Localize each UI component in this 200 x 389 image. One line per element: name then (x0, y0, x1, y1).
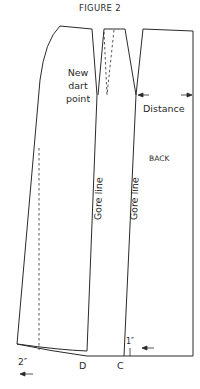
new-dart-point-label: New dart point (58, 66, 98, 105)
gore-line-label-1: Gore line (93, 177, 104, 220)
back-label: BACK (149, 155, 169, 163)
one-inch-label: 1″ (126, 338, 134, 346)
gore-line-label-2: Gore line (129, 177, 140, 220)
two-inch-label: 2″ (18, 358, 27, 367)
dart-dashed-line-1 (104, 32, 107, 95)
figure-title: FIGURE 2 (0, 4, 200, 13)
dart-dashed-line-2 (107, 30, 114, 95)
point-d-label: D (79, 361, 86, 371)
point-c-label: C (117, 361, 124, 371)
distance-label: Distance (143, 104, 185, 114)
